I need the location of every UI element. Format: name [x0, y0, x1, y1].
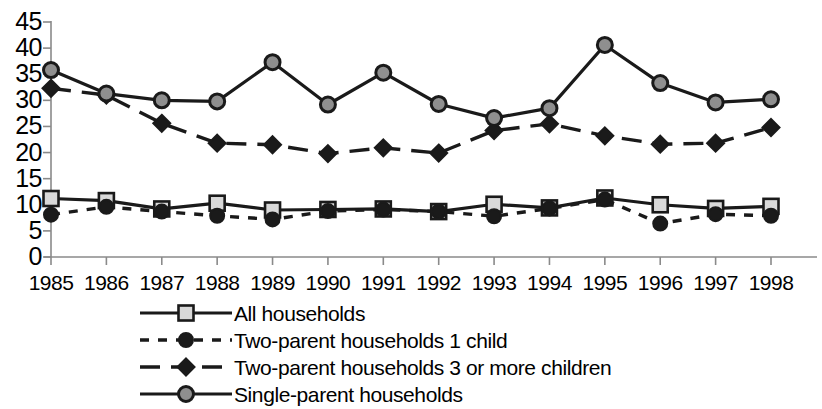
legend-item: Single-parent households — [0, 381, 822, 407]
plot-area — [0, 0, 822, 300]
x-tick-label: 1985 — [23, 272, 79, 293]
data-point-shaded-circle — [154, 93, 169, 108]
data-point-filled-circle — [432, 205, 446, 219]
x-tick-label: 1990 — [300, 272, 356, 293]
x-tick-label: 1988 — [189, 272, 245, 293]
data-point-filled-circle — [210, 209, 224, 223]
x-tick-label: 1993 — [466, 272, 522, 293]
data-point-shaded-circle — [44, 63, 59, 78]
x-tick-label: 1991 — [355, 272, 411, 293]
data-point-filled-diamond — [43, 80, 60, 97]
x-tick-label: 1996 — [632, 272, 688, 293]
data-point-filled-diamond — [264, 136, 281, 153]
data-point-filled-diamond — [763, 119, 780, 136]
data-point-open-square — [653, 197, 668, 212]
legend-marker-sample — [138, 300, 234, 326]
data-point-shaded-circle — [99, 86, 114, 101]
data-point-open-square — [179, 306, 194, 321]
data-point-shaded-circle — [542, 101, 557, 116]
x-tick-label: 1998 — [743, 272, 799, 293]
data-point-filled-circle — [653, 217, 667, 231]
legend-marker-sample — [138, 354, 234, 380]
legend-label: Two-parent households 3 or more children — [234, 357, 611, 378]
data-point-shaded-circle — [597, 37, 612, 52]
data-point-shaded-circle — [320, 97, 335, 112]
data-point-open-square — [44, 191, 59, 206]
x-tick-label: 1989 — [245, 272, 301, 293]
data-point-shaded-circle — [764, 92, 779, 107]
data-point-filled-circle — [266, 212, 280, 226]
line-chart: 454035302520151050 198519861987198819891… — [0, 0, 822, 409]
legend-item: Two-parent households 3 or more children — [0, 354, 822, 380]
data-point-filled-diamond — [319, 145, 336, 162]
x-tick-label: 1997 — [688, 272, 744, 293]
legend-marker-sample — [138, 327, 234, 353]
data-point-filled-diamond — [375, 139, 392, 156]
data-point-shaded-circle — [487, 111, 502, 126]
data-point-filled-diamond — [596, 127, 613, 144]
data-point-filled-circle — [709, 207, 723, 221]
data-point-filled-diamond — [178, 359, 195, 376]
data-point-filled-circle — [321, 204, 335, 218]
legend-item: Two-parent households 1 child — [0, 327, 822, 353]
x-tick-label: 1995 — [577, 272, 633, 293]
data-point-filled-circle — [487, 209, 501, 223]
chart-legend: All householdsTwo-parent households 1 ch… — [0, 300, 822, 408]
legend-label: Single-parent households — [234, 384, 463, 405]
data-point-filled-circle — [542, 201, 556, 215]
legend-marker-sample — [138, 381, 234, 407]
data-point-filled-circle — [99, 200, 113, 214]
y-tick-label: 45 — [0, 9, 42, 34]
data-point-shaded-circle — [210, 94, 225, 109]
series-0 — [44, 190, 779, 219]
data-point-filled-diamond — [209, 135, 226, 152]
x-tick-label: 1992 — [411, 272, 467, 293]
y-tick-label: 0 — [0, 244, 42, 269]
x-tick-label: 1994 — [521, 272, 577, 293]
data-point-filled-circle — [764, 209, 778, 223]
data-point-shaded-circle — [653, 76, 668, 91]
y-tick-label: 25 — [0, 113, 42, 138]
series-3 — [44, 37, 779, 125]
legend-label: Two-parent households 1 child — [234, 330, 507, 351]
legend-label: All households — [234, 303, 365, 324]
y-tick-label: 20 — [0, 140, 42, 165]
y-tick-label: 5 — [0, 218, 42, 243]
data-point-filled-diamond — [652, 136, 669, 153]
x-tick-label: 1987 — [134, 272, 190, 293]
legend-item: All households — [0, 300, 822, 326]
data-point-shaded-circle — [708, 95, 723, 110]
data-point-shaded-circle — [179, 387, 194, 402]
data-series-group — [43, 37, 780, 230]
data-point-shaded-circle — [265, 55, 280, 70]
y-tick-label: 35 — [0, 61, 42, 86]
x-tick-label: 1986 — [78, 272, 134, 293]
data-point-shaded-circle — [376, 65, 391, 80]
data-point-filled-circle — [376, 202, 390, 216]
y-tick-label: 15 — [0, 166, 42, 191]
data-point-filled-diamond — [707, 135, 724, 152]
y-tick-label: 40 — [0, 35, 42, 60]
data-point-filled-diamond — [430, 145, 447, 162]
y-tick-label: 30 — [0, 87, 42, 112]
series-2 — [43, 80, 780, 162]
data-point-filled-diamond — [541, 115, 558, 132]
data-point-filled-circle — [44, 208, 58, 222]
data-point-filled-circle — [155, 205, 169, 219]
data-point-shaded-circle — [431, 96, 446, 111]
y-tick-label: 10 — [0, 192, 42, 217]
data-point-filled-circle — [179, 333, 193, 347]
data-point-filled-diamond — [153, 115, 170, 132]
data-point-filled-circle — [598, 193, 612, 207]
